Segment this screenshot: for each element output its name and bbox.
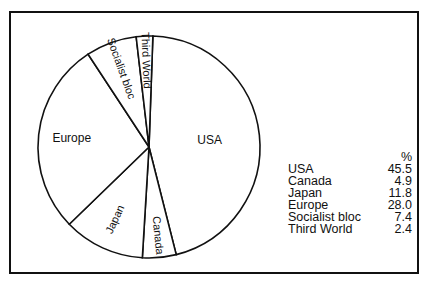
pie-chart: USACanadaJapanEuropeSocialist blocThird … xyxy=(0,0,425,282)
slice-label: USA xyxy=(197,133,222,147)
legend: % USA45.5 Canada4.9 Japan11.8 Europe28.0… xyxy=(288,151,412,235)
slice-label: Europe xyxy=(52,131,91,145)
legend-row: Third World2.4 xyxy=(288,223,412,235)
slice-label: Third World xyxy=(139,32,153,89)
